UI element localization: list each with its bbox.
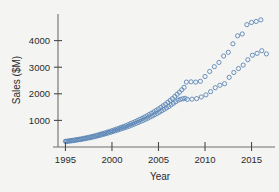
x-axis-ticks: 19952000200520102015 — [55, 142, 262, 165]
data-point — [217, 60, 221, 64]
data-point — [231, 42, 235, 46]
axes-layer — [53, 14, 275, 147]
data-point — [212, 65, 216, 69]
y-tick-label: 4000 — [29, 35, 50, 46]
data-point — [208, 69, 212, 73]
data-point — [264, 52, 268, 56]
data-point — [213, 86, 217, 90]
data-point — [222, 82, 226, 86]
data-point — [255, 51, 259, 55]
data-point — [198, 79, 202, 83]
data-point — [232, 70, 236, 74]
data-point — [235, 34, 239, 38]
data-point — [227, 75, 231, 79]
data-point — [259, 18, 263, 22]
data-point — [194, 80, 198, 84]
data-point — [189, 80, 193, 84]
data-point — [218, 83, 222, 87]
y-tick-label: 3000 — [29, 62, 50, 73]
x-tick-label: 2010 — [194, 154, 215, 165]
plot-area: 1000200030004000 19952000200520102015 Sa… — [0, 0, 279, 192]
data-point — [260, 49, 264, 53]
y-tick-label: 1000 — [29, 115, 50, 126]
data-point — [226, 50, 230, 54]
series-0-markers — [63, 18, 263, 144]
data-point — [195, 96, 199, 100]
data-point — [246, 58, 250, 62]
data-point — [249, 20, 253, 24]
data-point — [203, 74, 207, 78]
x-tick-label: 1995 — [55, 154, 76, 165]
x-axis-title: Year — [150, 171, 171, 182]
y-axis-title: Sales ($M) — [11, 56, 22, 104]
data-point — [199, 95, 203, 99]
data-point — [184, 80, 188, 84]
x-tick-label: 2015 — [241, 154, 262, 165]
data-point — [254, 19, 258, 23]
data-point — [190, 97, 194, 101]
data-point — [204, 93, 208, 97]
data-point — [236, 66, 240, 70]
y-tick-label: 2000 — [29, 88, 50, 99]
data-markers-layer — [63, 18, 268, 144]
data-point — [240, 32, 244, 36]
x-tick-label: 2005 — [148, 154, 169, 165]
data-point — [245, 23, 249, 27]
data-point — [250, 53, 254, 57]
data-point — [222, 54, 226, 58]
data-point — [241, 63, 245, 67]
scatter-chart-figure: 1000200030004000 19952000200520102015 Sa… — [0, 0, 279, 192]
series-1-markers — [64, 49, 268, 144]
data-point — [208, 90, 212, 94]
x-tick-label: 2000 — [101, 154, 122, 165]
y-axis-ticks: 1000200030004000 — [29, 35, 62, 126]
